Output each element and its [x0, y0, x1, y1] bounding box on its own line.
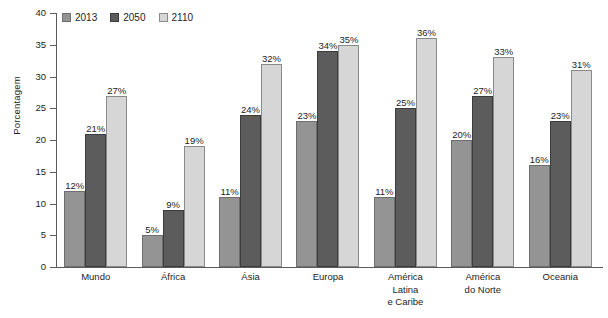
bar[interactable]: 5%	[142, 235, 163, 267]
bar-group-bars: 20%27%33%	[451, 13, 514, 267]
x-axis-category-label: África	[130, 271, 216, 284]
bar[interactable]: 19%	[184, 146, 205, 267]
x-axis-line	[50, 267, 603, 268]
y-axis-title: Porcentagem	[11, 46, 22, 166]
bar-value-label: 11%	[375, 186, 393, 197]
bar[interactable]: 16%	[529, 165, 550, 267]
bar-group-bars: 11%25%36%	[374, 13, 437, 267]
bar-group-bars: 12%21%27%	[64, 13, 127, 267]
bar-value-label: 21%	[86, 123, 105, 134]
y-tick-label: 40	[24, 6, 46, 19]
y-tick: 30	[50, 77, 56, 78]
y-tick-label: 35	[24, 38, 46, 51]
bar-chart: Porcentagem 2013 2050 2110 4035302520151…	[0, 0, 608, 318]
bar-value-label: 27%	[473, 85, 492, 96]
bar[interactable]: 23%	[296, 121, 317, 267]
y-tick: 10	[50, 204, 56, 205]
y-tick-label: 15	[24, 165, 46, 178]
bar-group: 12%21%27%Mundo	[57, 13, 134, 267]
category-label-line: do Norte	[440, 284, 526, 297]
category-label-line: Latina	[362, 284, 448, 297]
category-label-line: Ásia	[208, 271, 294, 284]
y-tick-label: 0	[24, 260, 46, 273]
bar-value-label: 9%	[166, 199, 180, 210]
bar-value-label: 11%	[220, 186, 238, 197]
y-tick: 35	[50, 45, 56, 46]
bar[interactable]: 32%	[261, 64, 282, 267]
category-label-line: América	[362, 271, 448, 284]
bar-value-label: 24%	[241, 104, 260, 115]
category-label-line: África	[130, 271, 216, 284]
bar[interactable]: 31%	[571, 70, 592, 267]
y-tick: 40	[50, 13, 56, 14]
bar-group: 23%34%35%Europa	[289, 13, 366, 267]
bar[interactable]: 11%	[374, 197, 395, 267]
bar-value-label: 23%	[297, 110, 316, 121]
bar-groups: 12%21%27%Mundo5%9%19%África11%24%32%Ásia…	[57, 13, 599, 267]
bar-value-label: 36%	[417, 27, 436, 38]
bar-group-bars: 11%24%32%	[219, 13, 282, 267]
bar[interactable]: 27%	[472, 96, 493, 267]
category-label-line: Oceania	[517, 271, 603, 284]
bar[interactable]: 24%	[240, 115, 261, 267]
x-axis-category-label: Américado Norte	[440, 271, 526, 296]
bar-group-bars: 23%34%35%	[296, 13, 359, 267]
x-axis-category-label: Ásia	[208, 271, 294, 284]
category-label-line: América	[440, 271, 526, 284]
y-tick-label: 10	[24, 197, 46, 210]
y-tick-label: 5	[24, 228, 46, 241]
y-tick: 15	[50, 172, 56, 173]
bar-value-label: 32%	[262, 53, 281, 64]
bar-value-label: 12%	[65, 180, 84, 191]
bar[interactable]: 27%	[106, 96, 127, 267]
bar-value-label: 20%	[452, 129, 471, 140]
category-label-line: Europa	[285, 271, 371, 284]
y-tick: 0	[50, 267, 56, 268]
bar-value-label: 16%	[530, 154, 549, 165]
bar[interactable]: 36%	[416, 38, 437, 267]
bar[interactable]: 20%	[451, 140, 472, 267]
x-axis-category-label: Europa	[285, 271, 371, 284]
bar[interactable]: 35%	[338, 45, 359, 267]
y-tick: 20	[50, 140, 56, 141]
bar-value-label: 33%	[494, 46, 513, 57]
bar-group: 16%23%31%Oceania	[522, 13, 599, 267]
bar-group: 11%25%36%AméricaLatinae Caribe	[367, 13, 444, 267]
bar-group-bars: 5%9%19%	[142, 13, 205, 267]
bar[interactable]: 9%	[163, 210, 184, 267]
category-label-line: Mundo	[53, 271, 139, 284]
bar-value-label: 31%	[572, 59, 591, 70]
y-tick-label: 25	[24, 101, 46, 114]
y-tick-label: 30	[24, 70, 46, 83]
plot-area: 4035302520151050 12%21%27%Mundo5%9%19%Áf…	[56, 13, 599, 267]
x-axis-category-label: AméricaLatinae Caribe	[362, 271, 448, 309]
bar-value-label: 5%	[145, 224, 159, 235]
bar[interactable]: 23%	[550, 121, 571, 267]
bar-group-bars: 16%23%31%	[529, 13, 592, 267]
y-tick: 25	[50, 108, 56, 109]
bar-value-label: 35%	[339, 34, 358, 45]
bar[interactable]: 21%	[85, 134, 106, 267]
bar-group: 11%24%32%Ásia	[212, 13, 289, 267]
y-tick-label: 20	[24, 133, 46, 146]
bar-group: 20%27%33%Américado Norte	[444, 13, 521, 267]
bar-value-label: 23%	[551, 110, 570, 121]
bar[interactable]: 12%	[64, 191, 85, 267]
bar-value-label: 27%	[107, 85, 126, 96]
category-label-line: e Caribe	[362, 296, 448, 309]
y-tick: 5	[50, 235, 56, 236]
bar-group: 5%9%19%África	[134, 13, 211, 267]
x-axis-category-label: Mundo	[53, 271, 139, 284]
bar[interactable]: 34%	[317, 51, 338, 267]
x-axis-category-label: Oceania	[517, 271, 603, 284]
bar-value-label: 19%	[185, 135, 204, 146]
bar-value-label: 34%	[318, 40, 337, 51]
bar[interactable]: 25%	[395, 108, 416, 267]
bar-value-label: 25%	[396, 97, 415, 108]
bar[interactable]: 11%	[219, 197, 240, 267]
bar[interactable]: 33%	[493, 57, 514, 267]
